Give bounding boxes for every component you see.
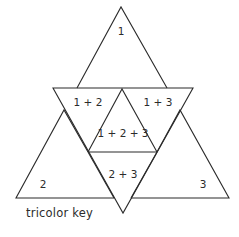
region-label-2-3: 2 + 3 — [109, 168, 138, 180]
region-label-1-3: 1 + 3 — [144, 96, 173, 108]
triangle-3-edges — [131, 110, 229, 198]
tricolor-key-diagram: 1 1 + 2 1 + 3 1 + 2 + 3 2 + 3 2 3 tricol… — [0, 0, 239, 237]
region-label-1-2-3: 1 + 2 + 3 — [98, 127, 149, 139]
region-label-3: 3 — [200, 178, 207, 190]
diagram-caption: tricolor key — [26, 206, 93, 220]
region-label-2: 2 — [40, 178, 47, 190]
triangle-2-edges — [16, 110, 114, 198]
region-label-1: 1 — [118, 25, 125, 37]
region-label-1-2: 1 + 2 — [74, 96, 103, 108]
triangle-1-edges — [77, 7, 167, 88]
